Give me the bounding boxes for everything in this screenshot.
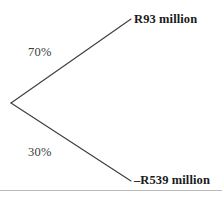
footer-divider <box>0 190 222 191</box>
branch-line-lower <box>11 103 131 181</box>
decision-tree-lines <box>0 0 222 198</box>
outcome-label-upper: R93 million <box>134 13 197 26</box>
probability-label-lower: 30% <box>28 146 52 159</box>
probability-label-upper: 70% <box>28 46 52 59</box>
decision-tree-figure: 70% 30% R93 million –R539 million <box>0 0 222 198</box>
outcome-label-lower: –R539 million <box>134 174 210 187</box>
branch-line-upper <box>11 19 131 103</box>
